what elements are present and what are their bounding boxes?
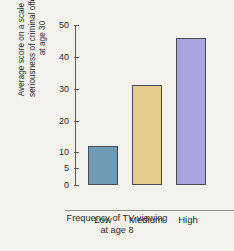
bar-high	[176, 38, 206, 185]
y-tick-label-0: 0	[64, 180, 69, 190]
y-tick-30: 30	[74, 89, 79, 90]
y-axis-title: Average score on a scale of the seriousn…	[9, 0, 57, 118]
y-tick-label-50: 50	[59, 20, 69, 30]
y-tick-10: 10	[74, 152, 79, 153]
y-tick-label-5: 5	[64, 163, 69, 173]
y-tick-20: 20	[74, 121, 79, 122]
y-tick-50: 50	[74, 25, 79, 26]
bar-medium	[132, 85, 162, 185]
y-tick-label-10: 10	[59, 147, 69, 157]
y-tick-0: 0	[74, 185, 79, 186]
y-axis-title-text: Average score on a scale of the seriousn…	[17, 0, 48, 97]
y-tick-label-40: 40	[59, 52, 69, 62]
y-tick-40: 40	[74, 57, 79, 58]
x-axis-baseline	[65, 210, 234, 211]
y-tick-label-20: 20	[59, 116, 69, 126]
bar-chart-figure: Average score on a scale of the seriousn…	[0, 0, 234, 251]
x-axis-title: Frequency of TV viewing at age 8	[0, 213, 234, 236]
bar-low	[88, 146, 118, 185]
plot-area: 50 40 30 20 10 5 0 Low Medium High	[75, 25, 211, 185]
y-axis-spine	[75, 25, 76, 185]
y-tick-label-30: 30	[59, 84, 69, 94]
y-tick-5: 5	[74, 168, 79, 169]
